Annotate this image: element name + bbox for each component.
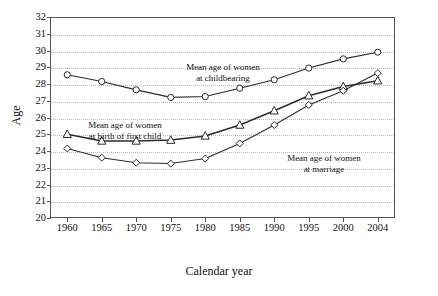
y-axis-tick-label: 30 — [0, 46, 46, 56]
data-point-circle — [237, 85, 243, 91]
y-axis-tick-mark — [47, 51, 51, 52]
data-point-circle — [133, 87, 139, 93]
annotation-line-2: at childbearing — [168, 73, 278, 84]
x-axis-tick-label: 2004 — [348, 222, 408, 233]
y-axis-tick-mark — [47, 118, 51, 119]
data-point-diamond — [374, 70, 381, 77]
data-point-circle — [99, 78, 105, 84]
y-axis-tick-label: 24 — [0, 146, 46, 156]
x-axis-tick-mark — [343, 218, 344, 222]
annotation-childbearing: Mean age of womenat childbearing — [168, 62, 278, 84]
y-axis-tick-mark — [47, 101, 51, 102]
annotation-first-child: Mean age of womenat birth of first child — [62, 120, 188, 142]
annotation-line-1: Mean age of women — [62, 120, 188, 131]
y-axis-tick-mark — [47, 151, 51, 152]
y-axis-tick-mark — [47, 134, 51, 135]
annotation-line-2: at birth of first child — [62, 131, 188, 142]
x-axis-tick-mark — [171, 218, 172, 222]
x-axis-tick-mark — [205, 218, 206, 222]
x-axis-tick-mark — [102, 218, 103, 222]
data-point-diamond — [167, 160, 174, 167]
line-chart: 20212223242526272829303132 1960196519701… — [0, 0, 438, 296]
y-axis-tick-label: 21 — [0, 196, 46, 206]
y-axis-tick-mark — [47, 201, 51, 202]
data-point-diamond — [305, 101, 312, 108]
data-point-circle — [202, 93, 208, 99]
data-point-diamond — [202, 155, 209, 162]
y-axis-tick-mark — [47, 67, 51, 68]
data-point-circle — [168, 94, 174, 100]
data-point-triangle — [374, 76, 382, 84]
x-axis-tick-mark — [378, 218, 379, 222]
x-axis-tick-mark — [274, 218, 275, 222]
annotation-line-1: Mean age of women — [168, 62, 278, 73]
y-axis-tick-label: 22 — [0, 180, 46, 190]
y-axis-tick-label: 29 — [0, 62, 46, 72]
y-axis-title: Age — [9, 86, 24, 146]
y-axis-tick-mark — [47, 185, 51, 186]
series-line — [67, 73, 378, 163]
annotation-line-1: Mean age of women — [268, 153, 380, 164]
y-axis-tick-mark — [47, 168, 51, 169]
x-axis-tick-mark — [309, 218, 310, 222]
x-axis-tick-mark — [136, 218, 137, 222]
y-axis-tick-label: 23 — [0, 163, 46, 173]
data-point-circle — [306, 65, 312, 71]
y-axis-tick-mark — [47, 84, 51, 85]
annotation-line-2: at marriage — [268, 164, 380, 175]
y-axis-tick-mark — [47, 34, 51, 35]
x-axis-tick-mark — [240, 218, 241, 222]
x-axis-tick-mark — [67, 218, 68, 222]
data-point-diamond — [236, 140, 243, 147]
data-point-diamond — [133, 159, 140, 166]
x-axis-title: Calendar year — [0, 264, 438, 279]
data-point-diamond — [98, 154, 105, 161]
data-point-circle — [340, 56, 346, 62]
data-point-circle — [64, 72, 70, 78]
y-axis-tick-mark — [47, 17, 51, 18]
y-axis-tick-mark — [47, 218, 51, 219]
annotation-marriage: Mean age of womenat marriage — [268, 153, 380, 175]
data-point-diamond — [271, 122, 278, 129]
series-layer — [50, 17, 395, 218]
y-axis-tick-label: 32 — [0, 12, 46, 22]
data-point-diamond — [64, 145, 71, 152]
data-point-circle — [375, 49, 381, 55]
y-axis-tick-label: 31 — [0, 29, 46, 39]
